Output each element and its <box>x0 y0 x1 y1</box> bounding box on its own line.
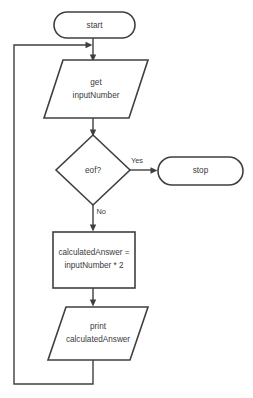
node-get-input[interactable] <box>44 60 148 118</box>
node-get-input-label-line2: inputNumber <box>73 91 120 100</box>
node-print-output-label-line2: calculatedAnswer <box>66 335 130 344</box>
node-print-output-label-line1: print <box>90 322 107 331</box>
edge-label-yes: Yes <box>131 156 143 165</box>
arrowhead-loop-back <box>86 42 93 48</box>
node-process-calculate[interactable] <box>53 232 135 288</box>
node-stop-label: stop <box>193 166 209 175</box>
node-process-label-line1: calculatedAnswer = <box>58 248 129 257</box>
arrowhead-decision-to-stop <box>151 167 158 173</box>
flowchart-canvas: start get inputNumber eof? Yes No stop c… <box>0 0 253 398</box>
edge-label-no: No <box>97 207 106 216</box>
arrowhead-process-to-print <box>90 300 96 307</box>
node-print-output[interactable] <box>48 307 148 360</box>
node-get-input-label-line1: get <box>90 78 102 87</box>
arrowhead-decision-to-process <box>90 225 96 232</box>
node-decision-eof-label: eof? <box>85 166 101 175</box>
node-process-label-line2: inputNumber * 2 <box>64 261 124 270</box>
node-start-label: start <box>87 21 104 30</box>
flowchart-svg: start get inputNumber eof? Yes No stop c… <box>0 0 253 398</box>
